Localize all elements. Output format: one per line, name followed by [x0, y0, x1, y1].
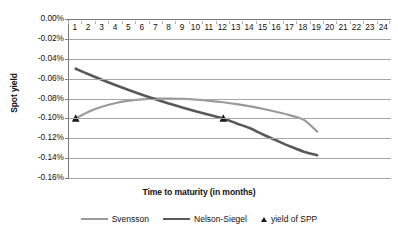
y-axis-tickmark — [65, 59, 69, 60]
gridline — [69, 178, 391, 179]
gridline — [69, 138, 391, 139]
x-axis-tickmark — [189, 21, 190, 24]
x-axis-tickmark — [323, 21, 324, 24]
x-axis-tickmark — [122, 21, 123, 24]
x-axis-tickmark — [149, 21, 150, 24]
x-axis-tickmark — [216, 21, 217, 24]
x-axis-tickmark — [256, 21, 257, 24]
x-axis-tickmark — [389, 21, 390, 24]
y-axis-tickmark — [65, 19, 69, 20]
y-axis-tick-label: -0.14% — [18, 153, 64, 162]
x-axis-tickmark — [108, 21, 109, 24]
legend-line-swatch — [163, 218, 190, 220]
x-axis-tick-label: 24 — [372, 21, 394, 33]
x-axis-tickmark — [350, 21, 351, 24]
legend-item-label: Nelson-Siegel — [194, 214, 247, 224]
gridline — [69, 118, 391, 119]
y-axis-tick-label: -0.02% — [18, 34, 64, 43]
y-axis-tick-label: 0.00% — [18, 14, 64, 23]
legend-line-swatch — [81, 218, 108, 220]
x-axis-tickmark — [269, 21, 270, 24]
legend-item-label: Svensson — [112, 214, 149, 224]
x-axis-tickmark — [296, 21, 297, 24]
legend-item[interactable]: Svensson — [81, 214, 149, 224]
spot-yield-chart: Spot yield 0.00%-0.02%-0.04%-0.06%-0.08%… — [0, 0, 398, 235]
x-axis-tickmark — [363, 21, 364, 24]
y-axis-tick-labels: 0.00%-0.02%-0.04%-0.06%-0.08%-0.10%-0.12… — [14, 0, 64, 235]
gridline — [69, 79, 391, 80]
legend-item[interactable]: Nelson-Siegel — [163, 214, 247, 224]
y-axis-tick-label: -0.16% — [18, 173, 64, 182]
x-axis-tickmark — [310, 21, 311, 24]
y-axis-tickmark — [65, 118, 69, 119]
x-axis-tickmark — [229, 21, 230, 24]
x-axis-tickmark — [242, 21, 243, 24]
x-axis-title: Time to maturity (in months) — [0, 187, 398, 197]
gridline — [69, 158, 391, 159]
y-axis-tickmark — [65, 99, 69, 100]
y-axis-tickmark — [65, 79, 69, 80]
chart-legend: SvenssonNelson-Siegelyield of SPP — [0, 211, 398, 227]
gridline — [69, 39, 391, 40]
y-axis-tick-label: -0.04% — [18, 54, 64, 63]
x-axis-tickmark — [135, 21, 136, 24]
legend-item-label: yield of SPP — [271, 214, 317, 224]
x-axis-tickmark — [336, 21, 337, 24]
x-axis-tickmark — [202, 21, 203, 24]
legend-triangle-icon — [261, 217, 267, 222]
x-axis-tickmark — [377, 21, 378, 24]
x-axis-tickmark — [283, 21, 284, 24]
series-line-svensson — [76, 99, 318, 132]
x-axis-tickmark — [68, 21, 69, 24]
y-axis-tickmark — [65, 178, 69, 179]
x-axis-tick-labels: 123456789101112131415161718192021222324 — [68, 21, 390, 35]
y-axis-tick-label: -0.12% — [18, 133, 64, 142]
x-axis-tickmark — [162, 21, 163, 24]
gridline — [69, 99, 391, 100]
gridline — [69, 59, 391, 60]
y-axis-tickmark — [65, 158, 69, 159]
y-axis-tickmark — [65, 39, 69, 40]
y-axis-tick-label: -0.10% — [18, 113, 64, 122]
gridline — [69, 19, 391, 20]
y-axis-tick-label: -0.08% — [18, 94, 64, 103]
plot-area — [68, 19, 391, 178]
x-axis-tickmark — [95, 21, 96, 24]
legend-item[interactable]: yield of SPP — [261, 214, 317, 224]
y-axis-tick-label: -0.06% — [18, 74, 64, 83]
x-axis-tickmark — [81, 21, 82, 24]
x-axis-tickmark — [175, 21, 176, 24]
y-axis-tickmark — [65, 138, 69, 139]
